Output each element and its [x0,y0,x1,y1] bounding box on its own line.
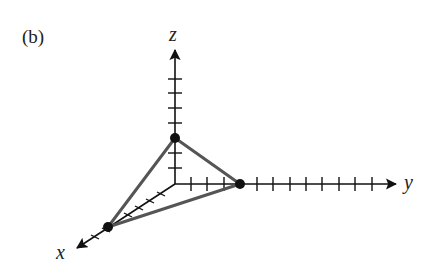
panel-label: (b) [22,26,44,48]
z-intercept-point [170,133,180,143]
y-axis-label: y [402,171,413,194]
edge-x-y [108,184,240,227]
y-axis: y [175,171,413,194]
z-axis-label: z [168,23,177,45]
z-axis: z [168,23,182,184]
coordinate-diagram: (b) z y [0,0,437,271]
x-axis-label: x [55,241,65,263]
x-intercept-point [103,222,113,232]
y-intercept-point [235,179,245,189]
edge-z-x [108,138,175,227]
intercept-triangle [108,138,240,227]
